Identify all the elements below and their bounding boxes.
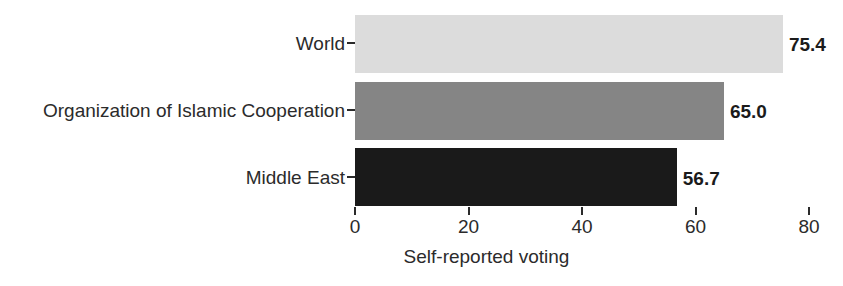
x-axis-tick-label-0: 0 bbox=[350, 216, 361, 238]
category-label-organization-of-islamic-cooperation: Organization of Islamic Cooperation bbox=[0, 101, 345, 120]
bar-value-label-middle-east: 56.7 bbox=[683, 169, 720, 188]
category-tick-icon-1 bbox=[347, 109, 355, 111]
x-axis-tick-80 bbox=[808, 207, 810, 215]
bar-organization-of-islamic-cooperation bbox=[355, 82, 724, 140]
category-label-middle-east: Middle East bbox=[0, 168, 345, 187]
bar-middle-east bbox=[355, 148, 677, 206]
bar-value-label-world: 75.4 bbox=[789, 35, 826, 54]
bar-value-label-organization-of-islamic-cooperation: 65.0 bbox=[730, 102, 767, 121]
x-axis-tick-40 bbox=[581, 207, 583, 215]
category-tick-icon-0 bbox=[347, 42, 355, 44]
x-axis-tick-label-80: 80 bbox=[798, 216, 819, 238]
x-axis-tick-label-40: 40 bbox=[571, 216, 592, 238]
category-label-world: World bbox=[0, 34, 345, 53]
x-axis-tick-label-20: 20 bbox=[458, 216, 479, 238]
x-axis-tick-label-60: 60 bbox=[685, 216, 706, 238]
bar-chart: World Organization of Islamic Cooperatio… bbox=[0, 0, 843, 286]
category-tick-icon-2 bbox=[347, 176, 355, 178]
x-axis-tick-60 bbox=[695, 207, 697, 215]
x-axis-tick-0 bbox=[354, 207, 356, 215]
x-axis-title-wrap: Self-reported voting bbox=[0, 246, 843, 268]
bar-world bbox=[355, 15, 783, 73]
x-axis-tick-20 bbox=[468, 207, 470, 215]
x-axis-title: Self-reported voting bbox=[404, 246, 570, 268]
